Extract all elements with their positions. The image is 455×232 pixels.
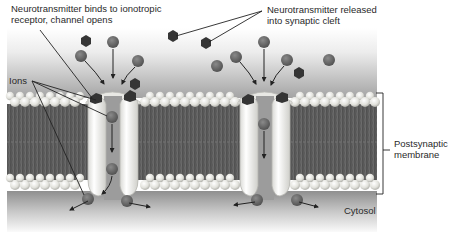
lipid-head (146, 174, 154, 182)
lipid-head (210, 97, 220, 107)
lipid-head (140, 97, 150, 107)
lipid-head (356, 174, 364, 182)
lipid-head (190, 97, 200, 107)
lipid-head (10, 97, 20, 107)
ion-icon (106, 163, 118, 175)
lipid-head (186, 174, 194, 182)
lipid-head (6, 174, 14, 182)
lipid-head (326, 174, 334, 182)
diagram-stage: Neurotransmitter binds to ionotropic rec… (0, 0, 455, 232)
lipid-head (56, 174, 64, 182)
lipid-head (336, 174, 344, 182)
receptor-channel-right (238, 92, 292, 200)
lipid-head (180, 97, 190, 107)
lipid-head (166, 174, 174, 182)
lipid-head (330, 97, 340, 107)
lipid-head (46, 174, 54, 182)
receptor-channel-left (86, 90, 140, 200)
lipid-head (196, 174, 204, 182)
neurotransmission-diagram (0, 0, 455, 232)
lipid-head (156, 174, 164, 182)
ion-icon (251, 194, 263, 206)
label-released-line2: into synaptic cleft (267, 15, 377, 26)
lipid-head (20, 97, 30, 107)
label-released-line1: Neurotransmitter released (267, 4, 377, 15)
ion-icon (230, 51, 242, 63)
lipid-head (296, 174, 304, 182)
ion-icon (211, 60, 223, 72)
lipid-head (360, 97, 370, 107)
synaptic-cleft (7, 28, 377, 98)
ion-icon (132, 55, 144, 67)
lipid-head (316, 174, 324, 182)
lipid-head (346, 174, 354, 182)
lipid-head (320, 97, 330, 107)
lipid-head (366, 174, 374, 182)
lipid-head (200, 97, 210, 107)
lipid-head (310, 97, 320, 107)
lipid-head (370, 97, 380, 107)
ion-icon (75, 50, 87, 62)
cytosol-region (7, 191, 377, 232)
lipid-head (66, 174, 74, 182)
label-released: Neurotransmitter released into synaptic … (267, 4, 377, 26)
ion-icon (107, 36, 119, 48)
lipid-head (160, 97, 170, 107)
label-binding-line1: Neurotransmitter binds to ionotropic (11, 3, 162, 14)
lipid-head (30, 97, 40, 107)
lipid-head (350, 97, 360, 107)
ion-icon (121, 195, 133, 207)
lipid-head (220, 97, 230, 107)
lipid-head (176, 174, 184, 182)
lipid-head (216, 174, 224, 182)
ion-icon (281, 54, 293, 66)
lipid-head (150, 97, 160, 107)
lipid-head (50, 97, 60, 107)
ion-icon (323, 54, 335, 66)
lipid-head (300, 97, 310, 107)
lipid-head (70, 97, 80, 107)
lipid-head (206, 174, 214, 182)
ion-icon (106, 111, 118, 123)
label-cytosol: Cytosol (344, 205, 376, 216)
label-membrane-line2: membrane (394, 149, 448, 160)
lipid-head (26, 174, 34, 182)
label-binding: Neurotransmitter binds to ionotropic rec… (11, 3, 162, 25)
lipid-head (226, 174, 234, 182)
lipid-head (340, 97, 350, 107)
ion-icon (291, 194, 303, 206)
ion-icon (258, 118, 270, 130)
ion-icon (258, 36, 270, 48)
lipid-head (16, 174, 24, 182)
lipid-head (36, 174, 44, 182)
lipid-head (170, 97, 180, 107)
label-membrane-line1: Postsynaptic (394, 138, 448, 149)
lipid-head (306, 174, 314, 182)
label-postsynaptic-membrane: Postsynaptic membrane (394, 138, 448, 160)
lipid-head (76, 174, 84, 182)
label-binding-line2: receptor, channel opens (11, 14, 162, 25)
label-ions: Ions (9, 75, 27, 86)
